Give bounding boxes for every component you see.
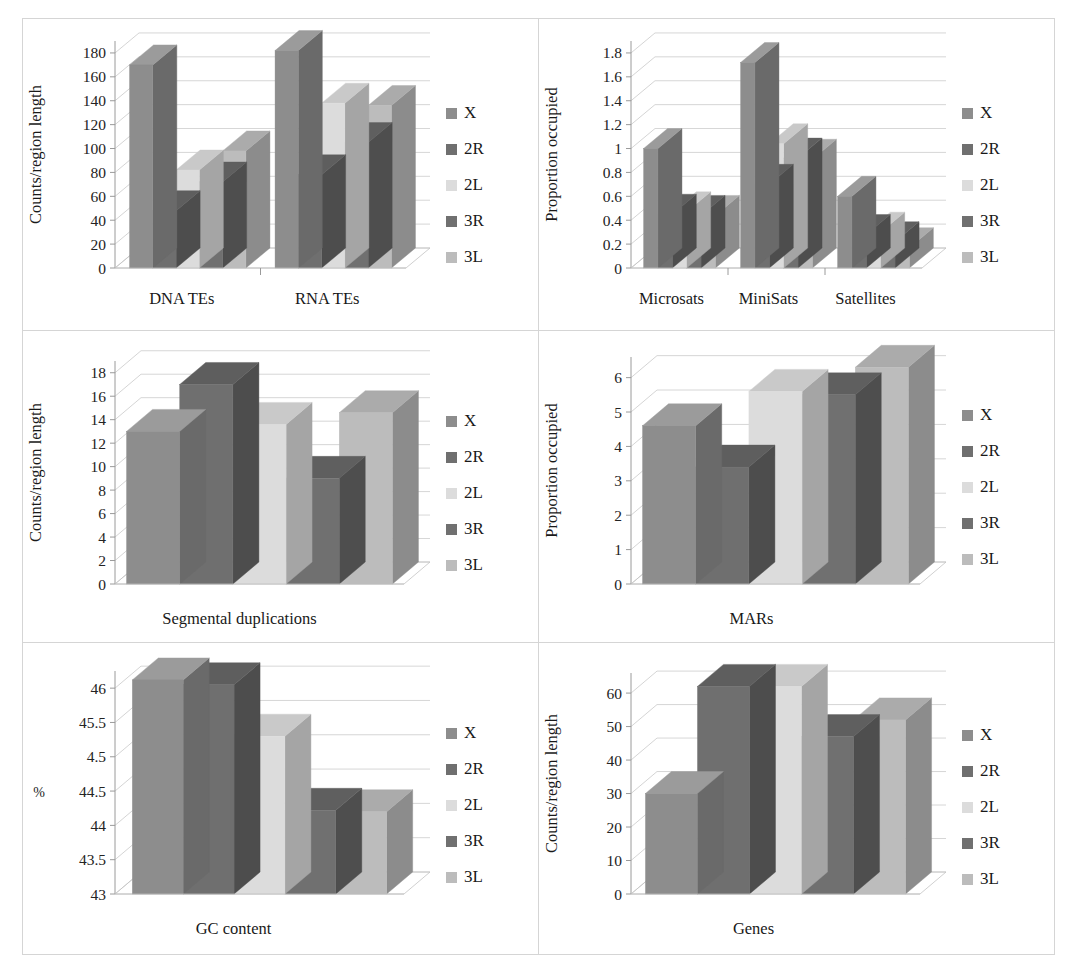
y-axis-title: Proportion occupied	[542, 403, 561, 538]
bar-mars-X-0	[643, 404, 722, 584]
category-label: Satellites	[835, 289, 896, 308]
category-label: Segmental duplications	[162, 609, 316, 628]
legend-swatch-X	[962, 730, 973, 741]
y-tick-label: 1.8	[603, 44, 623, 61]
y-tick-label: 0	[614, 886, 622, 903]
category-label: Genes	[733, 919, 774, 938]
legend-swatch-2R	[446, 144, 457, 155]
chart-panel-dna-rna-tes: 020406080100120140160180Counts/region le…	[22, 18, 539, 331]
legend-swatch-2R	[962, 766, 973, 777]
y-tick-label: 43	[91, 886, 107, 903]
y-tick-label: 4	[98, 529, 106, 546]
y-tick-label: 5	[614, 404, 622, 421]
bar-gc-content-X-0	[132, 658, 209, 894]
legend-label-3L: 3L	[464, 867, 483, 886]
wall-diagonal	[631, 81, 655, 101]
legend: X2R2L3R3L	[962, 103, 1001, 266]
plot-area	[631, 345, 946, 584]
y-tick-label: 10	[607, 852, 623, 869]
wall-diagonal	[631, 738, 657, 760]
bar-dna-rna-tes-X-1	[275, 31, 322, 268]
y-tick-label: 12	[91, 435, 107, 452]
legend-label-2R: 2R	[980, 441, 1001, 460]
plot-area	[631, 664, 946, 894]
wall-diagonal	[631, 671, 657, 693]
y-tick-label: 0	[614, 260, 622, 277]
bars-group	[132, 658, 412, 894]
legend-label-3R: 3R	[980, 513, 1001, 532]
wall-diagonal	[115, 351, 141, 373]
y-tick-label: 1.6	[603, 68, 623, 85]
legend-label-2L: 2L	[980, 477, 999, 496]
wall-diagonal	[631, 105, 655, 125]
legend-label-X: X	[464, 411, 476, 430]
legend-label-2R: 2R	[980, 761, 1001, 780]
y-tick-label: 0	[614, 576, 622, 593]
panel-grid: 020406080100120140160180Counts/region le…	[22, 18, 1052, 953]
y-tick-label: 80	[91, 164, 107, 181]
y-tick-label: 60	[91, 188, 107, 205]
chart-genes: 0102030405060Counts/region lengthGenesX2…	[539, 643, 1054, 954]
legend-swatch-3R	[962, 838, 973, 849]
legend-swatch-X	[962, 410, 973, 421]
chart-dna-rna-tes: 020406080100120140160180Counts/region le…	[23, 19, 538, 330]
category-label: Microsats	[639, 289, 704, 308]
plot-area	[115, 31, 430, 275]
wall-diagonal	[631, 356, 657, 378]
legend-label-3R: 3R	[464, 519, 485, 538]
y-tick-label: 2	[98, 552, 106, 569]
bars-group	[644, 43, 934, 268]
y-axis-title: Proportion occupied	[542, 87, 561, 222]
legend-swatch-2L	[962, 180, 973, 191]
legend-label-2R: 2R	[464, 759, 485, 778]
legend-swatch-3L	[962, 554, 973, 565]
legend-label-2L: 2L	[464, 483, 483, 502]
category-label: MARs	[729, 609, 773, 628]
y-tick-label: 120	[83, 116, 107, 133]
wall-diagonal	[631, 705, 657, 727]
chart-panel-gc-content: 4343.54444.54.545.546%GC contentX2R2L3R3…	[22, 643, 539, 955]
y-tick-label: 140	[83, 92, 107, 109]
legend-label-X: X	[464, 723, 476, 742]
legend-swatch-3R	[446, 524, 457, 535]
y-axis-title: Counts/region length	[26, 84, 45, 224]
y-tick-label: 180	[83, 44, 107, 61]
y-tick-label: 1	[614, 541, 622, 558]
y-tick-label: 6	[614, 369, 622, 386]
legend-label-3L: 3L	[464, 555, 483, 574]
legend-swatch-2R	[446, 452, 457, 463]
legend-swatch-X	[446, 728, 457, 739]
wall-diagonal	[631, 33, 655, 53]
y-tick-label: 1.4	[603, 92, 623, 109]
chart-repeats: 00.20.40.60.811.21.41.61.8Proportion occ…	[539, 19, 1054, 330]
legend-label-3R: 3R	[464, 831, 485, 850]
legend-label-3R: 3R	[464, 211, 485, 230]
category-label: RNA TEs	[295, 289, 359, 308]
bars-group	[645, 664, 931, 894]
y-tick-label: 0.4	[603, 212, 623, 229]
y-tick-label: 160	[83, 68, 107, 85]
legend-swatch-X	[446, 416, 457, 427]
y-tick-label: 0.6	[603, 188, 623, 205]
y-axis-title: %	[33, 785, 45, 800]
y-tick-label: 1	[614, 140, 622, 157]
wall-diagonal	[115, 374, 141, 396]
legend-label-3L: 3L	[980, 549, 999, 568]
y-tick-label: 16	[91, 388, 107, 405]
y-axis-title: Counts/region length	[542, 713, 561, 853]
plot-area	[115, 658, 430, 894]
legend-label-3L: 3L	[464, 247, 483, 266]
y-tick-label: 44	[91, 817, 107, 834]
legend-label-3R: 3R	[980, 211, 1001, 230]
legend-label-2R: 2R	[464, 139, 485, 158]
legend-swatch-3L	[962, 252, 973, 263]
chart-panel-mars: 0123456Proportion occupiedMARsX2R2L3R3L	[539, 331, 1055, 643]
y-tick-label: 20	[91, 236, 107, 253]
wall-diagonal	[631, 390, 657, 412]
figure-root: 020406080100120140160180Counts/region le…	[0, 0, 1066, 965]
legend-swatch-3L	[446, 252, 457, 263]
y-tick-label: 4.5	[87, 748, 107, 765]
y-axis-title: Counts/region length	[26, 402, 45, 542]
bar-repeats-X-1	[741, 43, 779, 268]
y-tick-label: 46	[91, 680, 107, 697]
